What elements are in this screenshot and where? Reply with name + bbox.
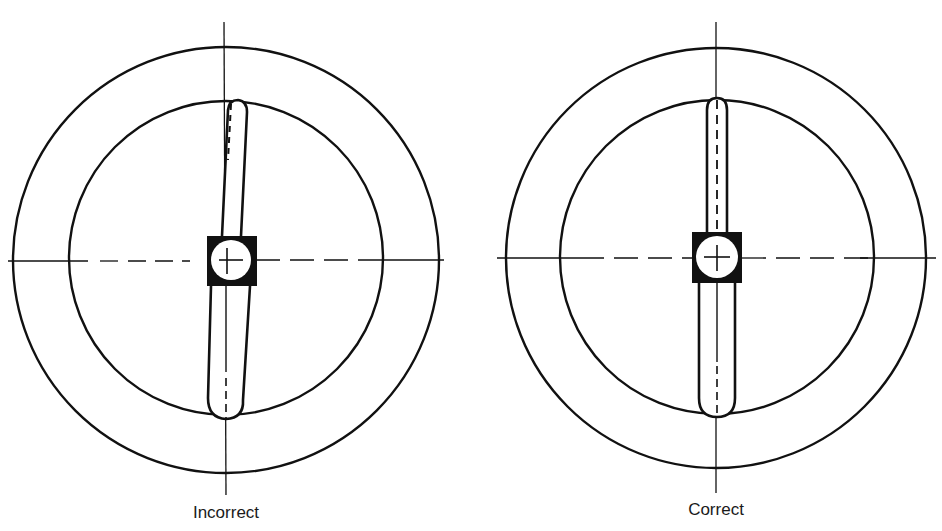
- caption-incorrect: Incorrect: [193, 503, 259, 523]
- figure-correct: Correct: [471, 0, 942, 531]
- lower-arm: [208, 286, 250, 419]
- incorrect-wheel-drawing: [0, 0, 471, 531]
- caption-correct: Correct: [688, 500, 744, 520]
- figure-incorrect: Incorrect: [0, 0, 471, 531]
- upper-arm: [222, 100, 247, 236]
- correct-wheel-drawing: [471, 0, 942, 531]
